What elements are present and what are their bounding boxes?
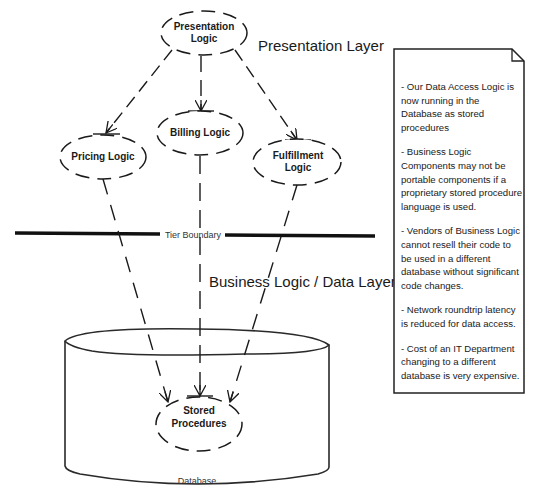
business-data-layer-label: Business Logic / Data Layer (209, 273, 396, 290)
tier-boundary-label: Tier Boundary (165, 230, 222, 240)
fulfillment-logic-label-1: Fulfillment (273, 150, 324, 161)
presentation-logic-label-2: Logic (191, 33, 218, 44)
billing-logic-label: Billing Logic (170, 127, 230, 138)
database-label: Database (178, 476, 217, 486)
stored-procedures-label-1: Stored (183, 405, 215, 416)
presentation-logic-label-1: Presentation (174, 21, 235, 32)
note-item: - Network roundtrip latency is reduced f… (401, 303, 523, 330)
note-text: - Our Data Access Logic is now running i… (401, 80, 523, 393)
note-item: - Business Logic Components may not be p… (401, 145, 523, 213)
presentation-layer-label: Presentation Layer (258, 37, 384, 54)
pricing-logic-label: Pricing Logic (71, 151, 135, 162)
note-item: - Cost of an IT Department changing to a… (401, 342, 523, 383)
note-item: - Vendors of Business Logic cannot resel… (401, 224, 523, 292)
fulfillment-logic-label-2: Logic (285, 162, 312, 173)
note-item: - Our Data Access Logic is now running i… (401, 80, 523, 134)
stored-procedures-label-2: Procedures (171, 418, 226, 429)
